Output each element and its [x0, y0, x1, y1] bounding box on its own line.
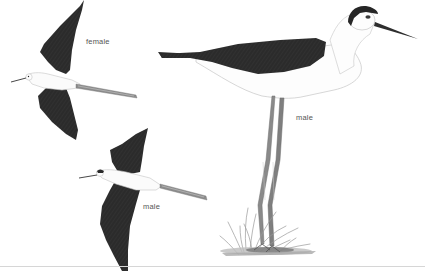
standing-eye: [365, 15, 370, 19]
standing-bill: [374, 22, 418, 39]
flying-female-bird: [11, 0, 137, 140]
male-body: [96, 170, 162, 190]
baseline-rule: [0, 266, 425, 267]
label-male-standing: male: [296, 113, 313, 122]
female-upper-wing: [40, 0, 84, 74]
male-lower-wing: [100, 176, 140, 271]
female-bill: [11, 78, 26, 82]
label-female-flying: female: [86, 37, 110, 46]
stilt-illustration: [0, 0, 425, 271]
standing-male-bird: [158, 6, 418, 246]
male-bill: [79, 175, 97, 178]
label-male-flying: male: [143, 202, 160, 211]
illustration-plate: female male male: [0, 0, 425, 271]
female-body: [26, 73, 80, 90]
flying-male-bird: [79, 128, 207, 271]
male-upper-wing: [110, 128, 148, 174]
male-legs: [160, 184, 207, 200]
female-lower-wing: [38, 88, 78, 140]
female-head: [26, 74, 32, 80]
